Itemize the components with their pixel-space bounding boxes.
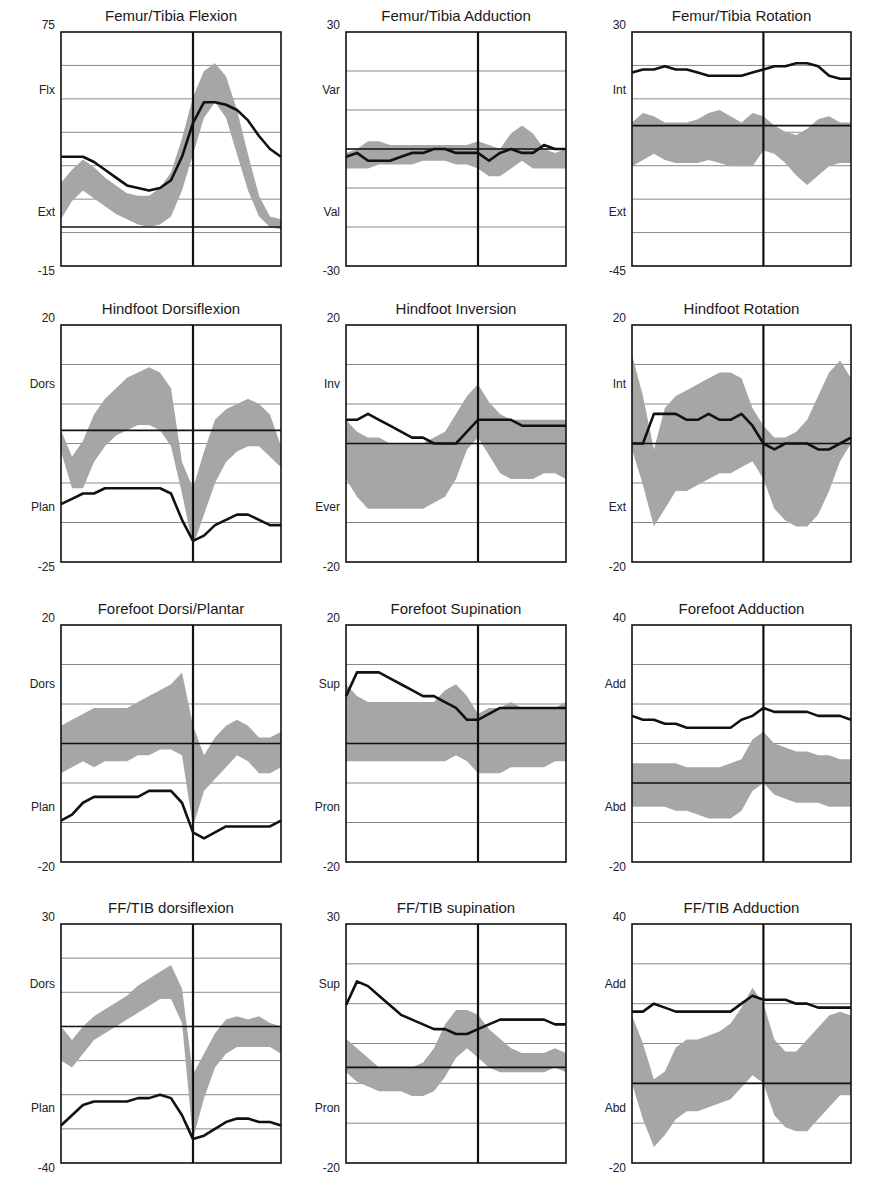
y-axis-max-label: 20: [15, 311, 55, 325]
y-axis-direction-negative: Pron: [300, 1101, 340, 1115]
chart-title: Forefoot Supination: [346, 600, 566, 617]
chart-title: Femur/Tibia Flexion: [61, 7, 281, 24]
chart-title: Hindfoot Rotation: [632, 300, 851, 317]
y-axis-max-label: 75: [15, 18, 55, 32]
y-axis-direction-positive: Add: [586, 677, 626, 691]
plot-area: [60, 624, 282, 863]
chart-title: Hindfoot Inversion: [346, 300, 566, 317]
y-axis-direction-negative: Plan: [15, 1101, 55, 1115]
y-axis-max-label: 30: [300, 18, 340, 32]
plot-area: [345, 923, 567, 1164]
plot-area: [345, 31, 567, 267]
y-axis-min-label: -20: [15, 860, 55, 874]
y-axis-min-label: -25: [15, 560, 55, 574]
patient-mean-curve: [632, 708, 851, 728]
plot-area: [345, 324, 567, 563]
y-axis-direction-positive: Int: [586, 377, 626, 391]
chart-title: Femur/Tibia Rotation: [632, 7, 851, 24]
plot-area: [631, 923, 852, 1164]
y-axis-direction-positive: Int: [586, 83, 626, 97]
y-axis-direction-positive: Dors: [15, 677, 55, 691]
y-axis-direction-negative: Abd: [586, 800, 626, 814]
chart-title: Forefoot Dorsi/Plantar: [61, 600, 281, 617]
patient-mean-curve: [61, 1095, 281, 1139]
plot-frame: [61, 32, 281, 266]
chart-title: Femur/Tibia Adduction: [346, 7, 566, 24]
plot-area: [60, 923, 282, 1164]
y-axis-direction-positive: Dors: [15, 977, 55, 991]
chart-title: Hindfoot Dorsiflexion: [61, 300, 281, 317]
y-axis-max-label: 30: [300, 910, 340, 924]
y-axis-max-label: 40: [586, 611, 626, 625]
y-axis-max-label: 20: [300, 311, 340, 325]
normal-range-band: [632, 732, 851, 819]
chart-title: FF/TIB dorsiflexion: [61, 899, 281, 916]
patient-mean-curve: [61, 791, 281, 838]
chart-title: Forefoot Adduction: [632, 600, 851, 617]
y-axis-direction-negative: Val: [300, 205, 340, 219]
y-axis-min-label: -20: [300, 860, 340, 874]
plot-area: [631, 31, 852, 267]
y-axis-direction-positive: Sup: [300, 977, 340, 991]
chart-title: FF/TIB supination: [346, 899, 566, 916]
y-axis-max-label: 40: [586, 910, 626, 924]
normal-range-band: [346, 684, 566, 773]
y-axis-max-label: 20: [300, 611, 340, 625]
y-axis-min-label: -30: [300, 264, 340, 278]
y-axis-min-label: -40: [15, 1161, 55, 1175]
plot-area: [631, 624, 852, 863]
y-axis-direction-positive: Inv: [300, 377, 340, 391]
normal-range-band: [632, 355, 851, 527]
y-axis-direction-positive: Add: [586, 977, 626, 991]
y-axis-direction-negative: Ext: [586, 205, 626, 219]
y-axis-direction-positive: Dors: [15, 377, 55, 391]
y-axis-min-label: -20: [300, 560, 340, 574]
y-axis-direction-positive: Sup: [300, 677, 340, 691]
y-axis-direction-negative: Plan: [15, 800, 55, 814]
plot-area: [345, 624, 567, 863]
y-axis-min-label: -20: [586, 560, 626, 574]
chart-title: FF/TIB Adduction: [632, 899, 851, 916]
patient-mean-curve: [61, 488, 281, 541]
y-axis-direction-negative: Ever: [300, 500, 340, 514]
plot-area: [60, 31, 282, 267]
normal-range-band: [632, 110, 851, 185]
plot-area: [60, 324, 282, 563]
y-axis-max-label: 20: [15, 611, 55, 625]
normal-range-band: [61, 965, 281, 1139]
y-axis-min-label: -20: [586, 860, 626, 874]
normal-range-band: [61, 672, 281, 826]
y-axis-max-label: 30: [586, 18, 626, 32]
y-axis-min-label: -15: [15, 264, 55, 278]
y-axis-min-label: -45: [586, 264, 626, 278]
y-axis-direction-positive: Flx: [15, 83, 55, 97]
y-axis-direction-negative: Ext: [586, 500, 626, 514]
y-axis-max-label: 20: [586, 311, 626, 325]
y-axis-direction-negative: Pron: [300, 800, 340, 814]
y-axis-max-label: 30: [15, 910, 55, 924]
normal-range-band: [61, 367, 281, 546]
y-axis-min-label: -20: [300, 1161, 340, 1175]
y-axis-direction-negative: Ext: [15, 205, 55, 219]
normal-range-band: [346, 384, 566, 508]
plot-area: [631, 324, 852, 563]
y-axis-min-label: -20: [586, 1161, 626, 1175]
y-axis-direction-positive: Var: [300, 83, 340, 97]
y-axis-direction-negative: Abd: [586, 1101, 626, 1115]
normal-range-band: [61, 63, 281, 229]
y-axis-direction-negative: Plan: [15, 500, 55, 514]
normal-range-band: [346, 126, 566, 177]
